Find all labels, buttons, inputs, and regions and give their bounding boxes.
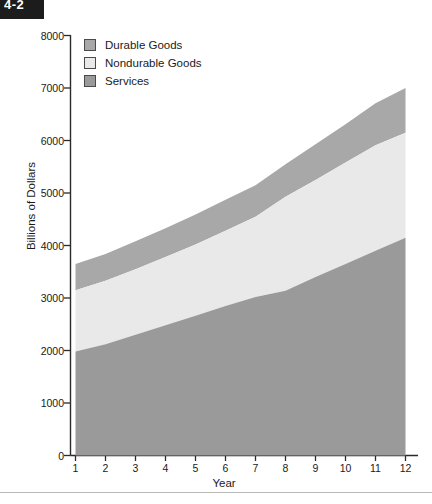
x-tick-label: 11 bbox=[361, 462, 391, 474]
x-tick-label: 7 bbox=[241, 462, 271, 474]
legend-item: Nondurable Goods bbox=[84, 55, 202, 71]
y-tick-label: 3000 bbox=[20, 293, 64, 303]
legend-swatch-icon bbox=[84, 39, 96, 51]
x-tick-label: 10 bbox=[331, 462, 361, 474]
x-tick-label: 9 bbox=[301, 462, 331, 474]
legend-label: Services bbox=[105, 75, 149, 87]
x-tick-label: 2 bbox=[91, 462, 121, 474]
legend-label: Nondurable Goods bbox=[105, 57, 202, 69]
stacked-area-chart: 010002000300040005000600070008000 Billio… bbox=[0, 0, 432, 504]
x-axis-tick-labels: 123456789101112 bbox=[0, 462, 432, 478]
y-tick-label: 7000 bbox=[20, 83, 64, 93]
y-axis-tick-labels: 010002000300040005000600070008000 bbox=[10, 0, 64, 504]
area-band-group bbox=[76, 88, 406, 456]
y-tick-label: 1000 bbox=[20, 398, 64, 408]
x-axis-title-text: Year bbox=[212, 477, 235, 489]
y-axis-ticks bbox=[64, 36, 71, 456]
legend-item: Services bbox=[84, 73, 202, 89]
x-tick-label: 5 bbox=[181, 462, 211, 474]
x-axis-ticks bbox=[76, 456, 406, 462]
legend-swatch-icon bbox=[84, 75, 96, 87]
x-tick-label: 3 bbox=[121, 462, 151, 474]
x-tick-label: 1 bbox=[61, 462, 91, 474]
y-axis-title: Billions of Dollars bbox=[25, 121, 37, 291]
x-tick-label: 8 bbox=[271, 462, 301, 474]
legend-item: Durable Goods bbox=[84, 37, 202, 53]
y-tick-label: 2000 bbox=[20, 346, 64, 356]
legend-swatch-icon bbox=[84, 57, 96, 69]
page-bottom-rule bbox=[0, 492, 432, 493]
legend-label: Durable Goods bbox=[105, 39, 182, 51]
x-axis-title: Year bbox=[0, 477, 432, 489]
chart-legend: Durable GoodsNondurable GoodsServices bbox=[84, 37, 202, 91]
chart-plot-svg bbox=[0, 0, 432, 504]
y-tick-label: 0 bbox=[20, 451, 64, 461]
x-tick-label: 6 bbox=[211, 462, 241, 474]
y-tick-label: 8000 bbox=[20, 31, 64, 41]
x-tick-label: 4 bbox=[151, 462, 181, 474]
x-tick-label: 12 bbox=[391, 462, 421, 474]
